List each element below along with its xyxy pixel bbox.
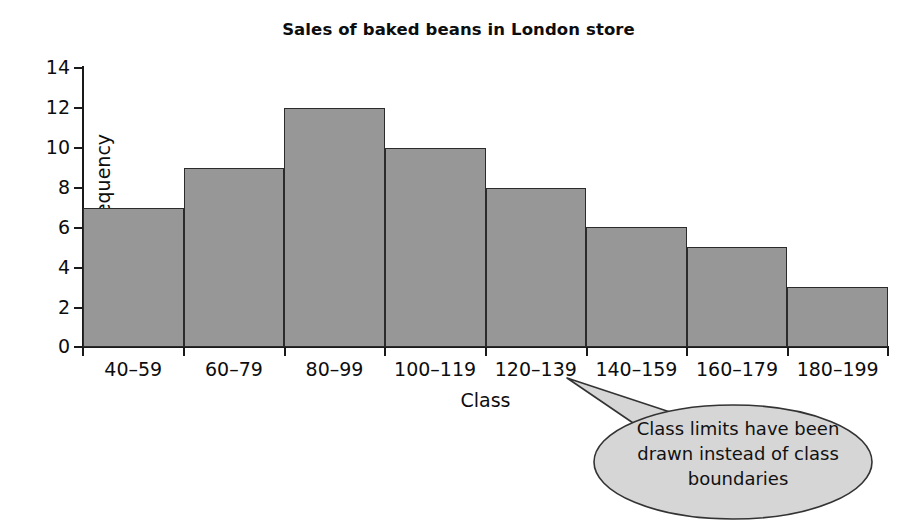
y-tick-10	[74, 147, 82, 149]
x-tick-label-40-59: 40–59	[83, 358, 184, 380]
y-tick-label-8: 8	[30, 178, 70, 197]
callout-text-line-2: drawn instead of class	[604, 441, 872, 466]
x-tick-7	[787, 347, 789, 356]
bars-layer	[83, 68, 888, 347]
histogram-figure: Sales of baked beans in London store Fre…	[0, 0, 917, 531]
y-tick-label-6: 6	[30, 218, 70, 237]
chart-title: Sales of baked beans in London store	[0, 20, 917, 39]
x-tick-label-100-119: 100–119	[385, 358, 486, 380]
bar-40-59[interactable]	[83, 208, 184, 348]
x-tick-8	[887, 347, 889, 356]
y-tick-label-12: 12	[30, 98, 70, 117]
bar-100-119[interactable]	[385, 148, 486, 347]
x-tick-label-80-99: 80–99	[284, 358, 385, 380]
bar-60-79[interactable]	[184, 168, 285, 347]
y-tick-2	[74, 307, 82, 309]
y-tick-label-10: 10	[30, 138, 70, 157]
y-tick-label-14: 14	[30, 58, 70, 77]
y-tick-0	[74, 346, 82, 348]
x-tick-4	[485, 347, 487, 356]
callout-text-line-3: boundaries	[604, 466, 872, 491]
x-tick-3	[384, 347, 386, 356]
callout-text-line-1: Class limits have been	[604, 416, 872, 441]
y-tick-label-4: 4	[30, 258, 70, 277]
bar-140-159[interactable]	[586, 227, 687, 347]
x-tick-label-60-79: 60–79	[184, 358, 285, 380]
y-tick-12	[74, 107, 82, 109]
y-tick-label-2: 2	[30, 298, 70, 317]
bar-160-179[interactable]	[687, 247, 788, 347]
x-tick-5	[586, 347, 588, 356]
x-tick-2	[284, 347, 286, 356]
y-tick-8	[74, 187, 82, 189]
x-tick-1	[183, 347, 185, 356]
x-tick-0	[82, 347, 84, 356]
bar-120-139[interactable]	[486, 188, 587, 347]
callout-text: Class limits have been drawn instead of …	[604, 416, 872, 491]
y-tick-6	[74, 227, 82, 229]
bar-180-199[interactable]	[787, 287, 888, 347]
y-tick-14	[74, 67, 82, 69]
y-tick-label-0: 0	[30, 337, 70, 356]
x-tick-6	[686, 347, 688, 356]
annotation-callout[interactable]: Class limits have been drawn instead of …	[560, 372, 917, 531]
bar-80-99[interactable]	[284, 108, 385, 347]
y-tick-4	[74, 267, 82, 269]
